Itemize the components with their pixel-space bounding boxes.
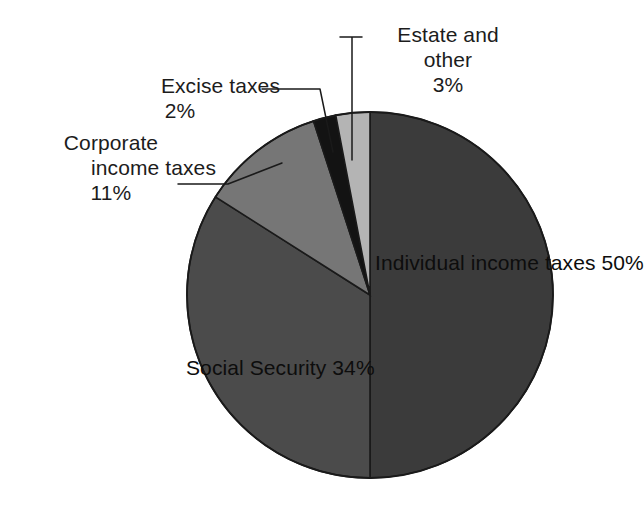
pie-slice-individual-income-taxes[interactable]: [370, 112, 553, 478]
slice-label-individual-income-taxes-value: 50%: [602, 251, 644, 274]
slice-callout-corporate-income-taxes-value: 11%: [6, 180, 216, 205]
slice-callout-corporate-income-taxes-line2: income taxes: [6, 155, 216, 180]
slice-callout-estate-and-other-line2: other: [368, 47, 528, 72]
slice-callout-excise-taxes: Excise taxes 2%: [80, 73, 280, 123]
slice-label-individual-income-taxes: Individual income taxes 50%: [375, 250, 550, 276]
slice-callout-corporate-income-taxes: Corporate income taxes 11%: [6, 130, 216, 206]
slice-callout-corporate-income-taxes-line1: Corporate: [6, 130, 216, 155]
slice-label-social-security-line1: Social Security: [186, 356, 326, 379]
slice-callout-estate-and-other: Estate and other 3%: [368, 22, 528, 98]
slice-label-individual-income-taxes-line2: income taxes: [471, 251, 596, 274]
slice-callout-estate-and-other-value: 3%: [368, 72, 528, 97]
slice-label-social-security: Social Security 34%: [186, 355, 371, 381]
slice-callout-estate-and-other-line1: Estate and: [368, 22, 528, 47]
slice-label-individual-income-taxes-line1: Individual: [375, 251, 465, 274]
slice-label-social-security-value: 34%: [332, 356, 374, 379]
slice-callout-excise-taxes-value: 2%: [80, 98, 280, 123]
slice-callout-excise-taxes-line1: Excise taxes: [80, 73, 280, 98]
